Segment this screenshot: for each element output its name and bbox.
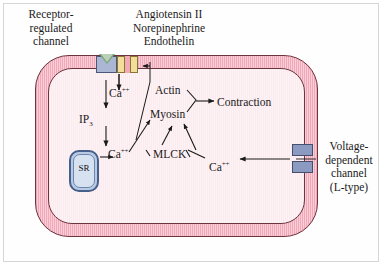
- mlck-label: MLCK: [153, 148, 186, 162]
- sr-label: SR: [69, 163, 99, 173]
- myosin-label: Myosin: [150, 108, 185, 122]
- calcium-right-symbol: Ca: [209, 161, 222, 173]
- calcium-cytosolic-label: Ca++: [108, 147, 128, 161]
- agonist-norepinephrine: Norepinephrine: [113, 22, 225, 36]
- calcium-influx-label: Ca++: [109, 86, 129, 100]
- calcium-cytosolic-charge: ++: [121, 147, 128, 155]
- voltage-dependent-channel-lower-icon: [292, 161, 313, 173]
- ligand-triangle-inner-icon: [101, 54, 113, 62]
- voltage-channel-caption: Voltage- dependent channel (L-type): [318, 140, 380, 194]
- agonist-endothelin: Endothelin: [113, 35, 225, 49]
- voltage-channel-caption-line2: dependent: [318, 154, 380, 168]
- figure-canvas: SR: [0, 0, 384, 267]
- calcium-cytosolic-symbol: Ca: [108, 148, 121, 160]
- voltage-channel-caption-line1: Voltage-: [318, 140, 380, 154]
- ip3-subscript: 3: [89, 120, 93, 128]
- contraction-label: Contraction: [217, 96, 271, 110]
- calcium-influx-right-label: Ca++: [209, 160, 229, 174]
- voltage-dependent-channel-upper-icon: [292, 144, 313, 156]
- calcium-influx-charge: ++: [122, 86, 129, 94]
- agonist-channel-left-icon: [117, 56, 125, 73]
- actin-label: Actin: [155, 84, 181, 98]
- agonist-channel-right-icon: [130, 56, 138, 73]
- calcium-influx-symbol: Ca: [109, 87, 122, 99]
- ip3-symbol: IP: [79, 113, 89, 125]
- receptor-channel-caption: Receptor- regulated channel: [12, 8, 90, 49]
- voltage-channel-caption-line4: (L-type): [318, 181, 380, 195]
- agonist-list-caption: Angiotensin II Norepinephrine Endothelin: [113, 8, 225, 49]
- agonist-angiotensin: Angiotensin II: [113, 8, 225, 22]
- receptor-channel-caption-line1: Receptor-: [12, 8, 90, 22]
- receptor-channel-caption-line3: channel: [12, 35, 90, 49]
- receptor-channel-caption-line2: regulated: [12, 22, 90, 36]
- voltage-channel-caption-line3: channel: [318, 167, 380, 181]
- calcium-right-charge: ++: [222, 160, 229, 168]
- ip3-label: IP3: [79, 113, 93, 129]
